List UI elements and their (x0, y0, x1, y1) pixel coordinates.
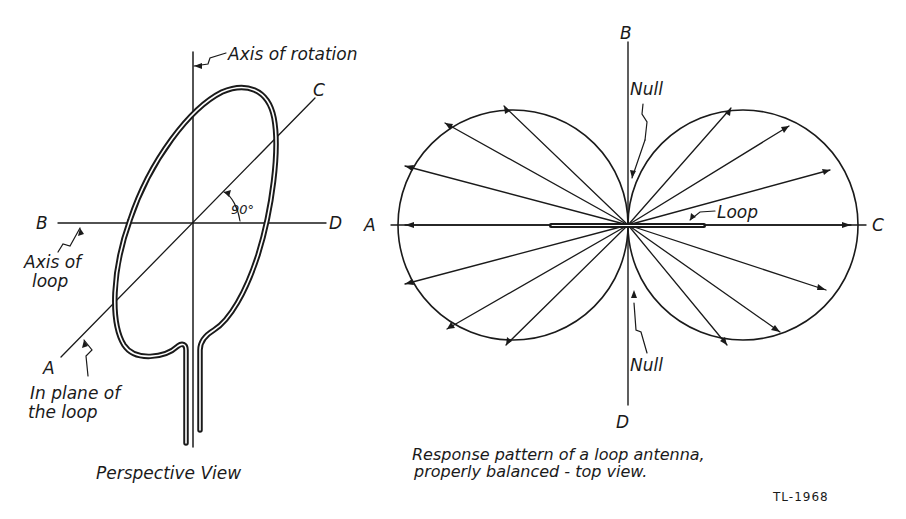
point-b-top-label: B (620, 24, 632, 42)
diagram-canvas (0, 0, 906, 519)
point-c-right-label: C (872, 216, 884, 234)
point-d-label: D (329, 214, 342, 232)
in-plane-label-1: In plane of (30, 384, 120, 402)
axis-of-loop-label-2: loop (32, 272, 68, 290)
caption-line-1: Response pattern of a loop antenna, (412, 446, 705, 463)
point-d-bottom-label: D (616, 413, 629, 431)
loop-label: Loop (717, 203, 758, 221)
angle-label: 90° (231, 201, 254, 219)
null-top-label: Null (630, 80, 663, 98)
axis-of-loop-leader (58, 228, 80, 252)
point-b-label: B (36, 214, 48, 232)
axis-of-rotation-label: Axis of rotation (228, 45, 358, 63)
null-bottom-leader (634, 303, 647, 353)
rotation-leader (194, 53, 226, 66)
response-pattern (391, 42, 866, 405)
null-top-leader (642, 104, 647, 140)
loop-conductor-outer (115, 88, 276, 443)
null-bottom-label: Null (630, 356, 663, 374)
point-a-right-label: A (364, 216, 376, 234)
caption-line-2: properly balanced - top view. (414, 463, 647, 480)
perspective-view-title: Perspective View (96, 464, 241, 482)
figure-id: TL-1968 (773, 488, 829, 506)
in-plane-label-2: the loop (28, 403, 98, 421)
point-c-label: C (313, 81, 325, 99)
point-a-label: A (43, 359, 55, 377)
axis-of-loop-label-1: Axis of (24, 253, 81, 271)
